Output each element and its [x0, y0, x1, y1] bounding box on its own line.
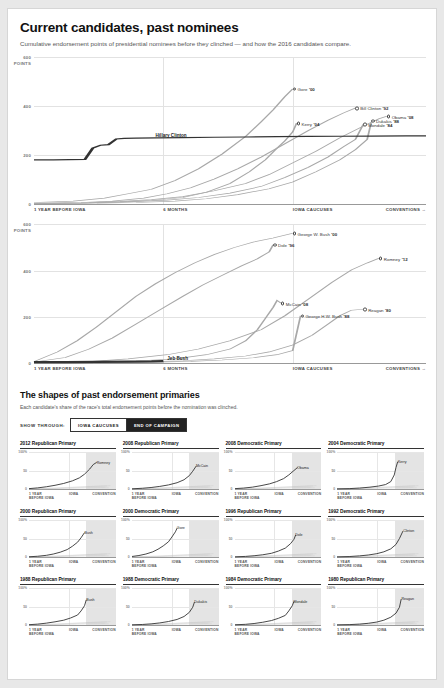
inline-label-jeb-bush: Jeb Bush — [167, 355, 188, 360]
small-chart-title: 1988 Democratic Primary — [123, 577, 219, 585]
chart-republicans-plot: 600POINTS 400 200 0 George W. — [34, 224, 426, 364]
y-axis-tick: 400 — [23, 269, 31, 274]
x-axis-tick: CONVENTION — [298, 492, 321, 496]
endpoint-name: Bill Clinton — [360, 106, 381, 111]
x-axis-tick: IOWA — [69, 560, 78, 564]
x-axis-tick: IOWA CAUCUSES — [293, 366, 333, 371]
inline-label-hillary-clinton: Hillary Clinton — [156, 133, 187, 138]
small-chart-winner-label: Obama — [297, 466, 309, 470]
y-axis-tick: 50 — [331, 469, 335, 473]
small-chart-winner-label: Reagan — [401, 597, 414, 601]
small-chart[interactable]: 1988 Republican Primary100%500Bush1 YEAR… — [20, 577, 116, 637]
page-subtitle: Cumulative endorsement points of preside… — [20, 40, 424, 48]
endpoint-label-mccain: McCain '08 — [281, 301, 308, 306]
y-axis-tick: 0 — [25, 623, 27, 627]
section-subtitle: Each candidate's share of the race's tot… — [20, 404, 424, 410]
series-endpoint-dot — [301, 314, 304, 317]
small-chart-plot: 100%500Gore — [132, 520, 219, 558]
show-through-toggle[interactable]: IOWA CAUCUSES END OF CAMPAIGN — [70, 418, 187, 432]
x-axis-tick: IOWA — [172, 560, 181, 564]
x-axis-tick: IOWA — [274, 628, 283, 632]
toggle-iowa-caucuses[interactable]: IOWA CAUCUSES — [70, 418, 127, 432]
x-axis-tick: CONVENTION — [401, 560, 424, 564]
endpoint-label-kerry: Kerry '04 — [297, 121, 320, 126]
y-axis-tick: 0 — [231, 623, 233, 627]
small-chart[interactable]: 2000 Republican Primary100%500Bush1 YEAR… — [20, 509, 116, 569]
y-axis-tick: 0 — [128, 487, 130, 491]
y-axis-tick: 600POINTS — [14, 55, 31, 66]
y-axis-tick: 0 — [231, 487, 233, 491]
series-endpoint-dot — [297, 122, 300, 125]
section-title: The shapes of past endorsement primaries — [20, 390, 424, 400]
y-axis-tick: 50 — [126, 469, 130, 473]
y-axis-tick: 50 — [23, 469, 27, 473]
small-chart[interactable]: 1996 Republican Primary100%500Dole1 YEAR… — [226, 509, 322, 569]
small-chart[interactable]: 2004 Democratic Primary100%500Kerry1 YEA… — [328, 441, 424, 501]
endpoint-name: Dukakis — [376, 118, 392, 123]
small-chart-winner-label: McCain — [196, 464, 208, 468]
small-chart[interactable]: 2012 Republican Primary100%500Romney1 YE… — [20, 441, 116, 501]
series-endpoint-dot — [363, 308, 366, 311]
small-chart[interactable]: 2008 Republican Primary100%500McCain1 YE… — [123, 441, 219, 501]
small-chart-lines — [337, 520, 424, 557]
endpoint-label-dukakis: Dukakis '88 — [371, 118, 399, 123]
x-axis-tick: CONVENTION — [195, 492, 218, 496]
small-chart-plot: 100%500Reagan — [337, 588, 424, 626]
header-block: Current candidates, past nominees Cumula… — [8, 9, 436, 48]
x-axis-tick: 6 MONTHS — [163, 366, 187, 371]
small-chart-title: 1984 Democratic Primary — [226, 577, 322, 585]
small-chart-plot: 100%500Romney — [29, 452, 116, 490]
endpoint-name: George W. Bush — [298, 231, 330, 236]
small-chart-title: 1988 Republican Primary — [20, 577, 116, 585]
endpoint-name: George H.W. Bush — [305, 314, 342, 319]
small-chart-lines — [132, 452, 219, 489]
x-axis-tick: 1 YEARBEFORE IOWA — [29, 492, 54, 501]
y-axis-tick: 100% — [224, 518, 233, 522]
small-chart-plot: 100%500Obama — [235, 452, 322, 490]
x-axis-tick: 1 YEAR BEFORE IOWA — [34, 366, 86, 371]
endpoint-name: Kerry — [302, 121, 313, 126]
small-chart[interactable]: 1980 Republican Primary100%500Reagan1 YE… — [328, 577, 424, 637]
x-axis-tick: IOWA — [274, 492, 283, 496]
small-chart[interactable]: 2000 Democratic Primary100%500Gore1 YEAR… — [123, 509, 219, 569]
y-axis-tick: 0 — [231, 555, 233, 559]
endpoint-label-gore: Gore '00 — [293, 87, 315, 92]
x-axis-tick: 1 YEARBEFORE IOWA — [337, 492, 362, 501]
small-chart-lines — [337, 588, 424, 625]
y-axis-tick: 200 — [23, 315, 31, 320]
page-background: Current candidates, past nominees Cumula… — [0, 0, 444, 688]
small-chart[interactable]: 1992 Democratic Primary100%500Clinton1 Y… — [328, 509, 424, 569]
y-axis-tick: 50 — [331, 605, 335, 609]
chart-republicans: 600POINTS 400 200 0 George W. — [8, 224, 436, 376]
x-axis-tick: CONVENTION — [298, 560, 321, 564]
y-axis-tick: 400 — [23, 104, 31, 109]
x-axis-tick: CONVENTION — [92, 492, 115, 496]
y-axis-tick: 100% — [224, 450, 233, 454]
x-axis-tick: CONVENTION — [195, 628, 218, 632]
section-shapes: The shapes of past endorsement primaries… — [8, 390, 436, 637]
small-chart-lines — [29, 452, 116, 489]
y-axis-tick: 0 — [28, 361, 31, 366]
small-chart[interactable]: 1988 Democratic Primary100%500Dukakis1 Y… — [123, 577, 219, 637]
x-axis-tick: CONVENTION — [92, 560, 115, 564]
y-axis-tick: 200 — [23, 153, 31, 158]
small-chart[interactable]: 1984 Democratic Primary100%500Mondale1 Y… — [226, 577, 322, 637]
toggle-end-of-campaign[interactable]: END OF CAMPAIGN — [127, 418, 187, 432]
y-axis-tick: 100% — [327, 586, 336, 590]
y-axis-tick: 0 — [333, 487, 335, 491]
x-axis-tick: 6 MONTHS — [163, 207, 187, 212]
endpoint-name: Gore — [298, 87, 308, 92]
series-endpoint-dot — [293, 232, 296, 235]
x-axis-tick: 1 YEARBEFORE IOWA — [29, 560, 54, 569]
small-chart-x-axis: 1 YEARBEFORE IOWAIOWACONVENTION — [235, 490, 322, 501]
chart-democrats-plot: 600POINTS 400 200 0 Gore — [34, 57, 426, 205]
y-axis-tick: 0 — [25, 555, 27, 559]
y-axis-tick: 100% — [121, 586, 130, 590]
small-chart[interactable]: 2008 Democratic Primary100%500Obama1 YEA… — [226, 441, 322, 501]
y-axis-tick: 50 — [23, 537, 27, 541]
article-card: Current candidates, past nominees Cumula… — [7, 8, 437, 680]
chart-republicans-x-axis: 1 YEAR BEFORE IOWA 6 MONTHS IOWA CAUCUSE… — [34, 364, 426, 376]
small-chart-plot: 100%500Kerry — [337, 452, 424, 490]
y-axis-tick: 50 — [229, 469, 233, 473]
small-chart-x-axis: 1 YEARBEFORE IOWAIOWACONVENTION — [235, 626, 322, 637]
